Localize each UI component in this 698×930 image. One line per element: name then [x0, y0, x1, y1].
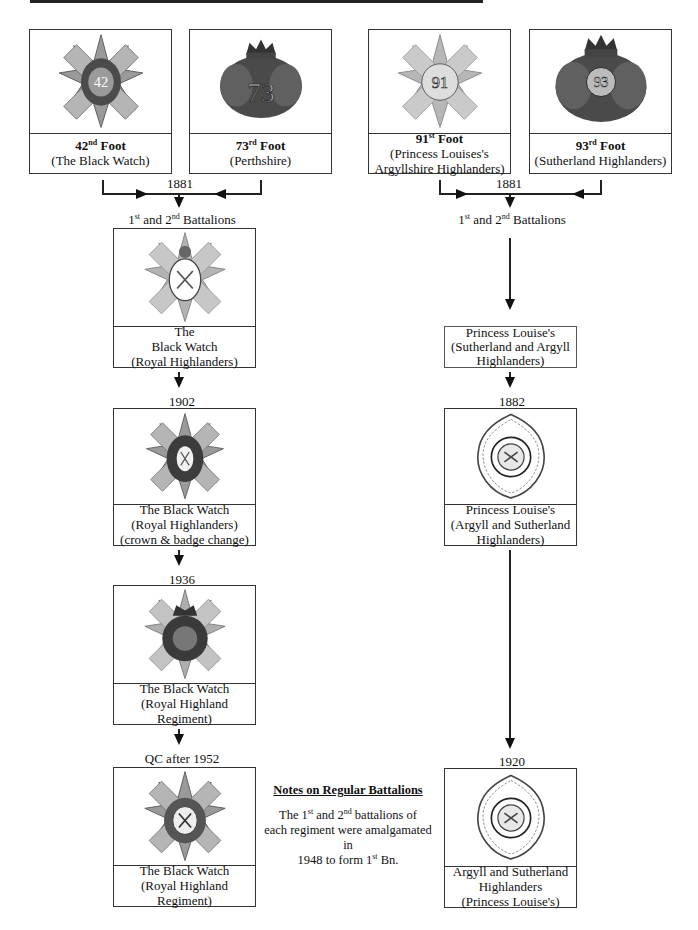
- stage-caption: Argyll and Sutherland Highlanders (Princ…: [445, 865, 576, 907]
- stage-caption: The Black Watch (Royal Highland Regiment…: [114, 864, 255, 906]
- merge-year-label: 1881: [167, 176, 193, 192]
- svg-text:93: 93: [593, 74, 608, 90]
- badge-73rd-icon: 73: [190, 30, 331, 134]
- regiment-caption: 93rd Foot (Sutherland Highlanders): [530, 133, 671, 173]
- arrow-right-icon: [456, 189, 468, 199]
- merge-connector: [260, 180, 262, 194]
- stage-caption: The Black Watch (Royal Highland Regiment…: [114, 682, 255, 724]
- svg-text:91: 91: [431, 73, 447, 92]
- timeline-connector: [509, 550, 511, 740]
- arrow-down-icon: [505, 738, 515, 749]
- regiment-card-91st: 91 91st Foot (Princess Louises's Argylls…: [368, 29, 511, 174]
- battalions-label: 1st and 2nd Battalions: [458, 212, 566, 228]
- badge-black-watch-icon: [114, 229, 255, 327]
- regiment-caption: 73rd Foot (Perthshire): [190, 133, 331, 173]
- merge-connector: [600, 180, 602, 194]
- notes-block: Notes on Regular Battalions The 1st and …: [258, 783, 438, 868]
- svg-text:73: 73: [247, 76, 275, 107]
- merge-connector: [439, 180, 441, 194]
- stage-card-argyll-1882: Princess Louise's (Argyll and Sutherland…: [444, 408, 577, 546]
- arrow-down-icon: [174, 734, 184, 745]
- stage-caption: Princess Louise's (Argyll and Sutherland…: [445, 503, 576, 545]
- heading-underline: [30, 0, 483, 3]
- stage-year-label: QC after 1952: [145, 751, 219, 767]
- timeline-connector: [509, 238, 511, 300]
- arrow-down-icon: [505, 197, 515, 208]
- stage-card-argyll-1920: Argyll and Sutherland Highlanders (Princ…: [444, 768, 577, 908]
- arrow-down-icon: [505, 377, 515, 388]
- badge-93rd-icon: 93: [530, 30, 671, 134]
- stage-card-black-watch-1936: The Black Watch (Royal Highland Regiment…: [113, 585, 256, 725]
- merge-connector: [102, 193, 262, 195]
- regiment-card-42nd: 42 42nd Foot (The Black Watch): [29, 29, 172, 174]
- stage-caption: The Black Watch (Royal Highlanders) (cro…: [114, 503, 255, 545]
- arrow-down-icon: [174, 555, 184, 566]
- notes-title: Notes on Regular Battalions: [258, 783, 438, 798]
- badge-argyll-sutherland-icon: [445, 409, 576, 505]
- arrow-down-icon: [505, 299, 515, 310]
- badge-black-watch-1902-icon: [114, 409, 255, 505]
- stage-card-black-watch-1881: The Black Watch (Royal Highlanders): [113, 228, 256, 368]
- badge-91st-icon: 91: [369, 30, 510, 134]
- stage-card-black-watch-1902: The Black Watch (Royal Highlanders) (cro…: [113, 408, 256, 546]
- svg-text:42: 42: [93, 74, 108, 90]
- interim-name-box: Princess Louise's (Sutherland and Argyll…: [444, 326, 577, 368]
- arrow-left-icon: [572, 189, 584, 199]
- stage-caption: The Black Watch (Royal Highlanders): [114, 325, 255, 367]
- arrow-down-icon: [174, 197, 184, 208]
- badge-42nd-icon: 42: [30, 30, 171, 134]
- stage-card-black-watch-qc: The Black Watch (Royal Highland Regiment…: [113, 767, 256, 907]
- battalions-label: 1st and 2nd Battalions: [128, 212, 236, 228]
- arrow-left-icon: [214, 189, 226, 199]
- merge-year-label: 1881: [496, 176, 522, 192]
- regiment-caption: 91st Foot (Princess Louises's Argyllshir…: [369, 133, 510, 173]
- badge-black-watch-qc-icon: [114, 768, 255, 866]
- notes-text: The 1st and 2nd battalions of each regim…: [258, 808, 438, 868]
- regiment-caption: 42nd Foot (The Black Watch): [30, 133, 171, 173]
- arrow-right-icon: [136, 189, 148, 199]
- regiment-card-73rd: 73 73rd Foot (Perthshire): [189, 29, 332, 174]
- badge-argyll-sutherland-1920-icon: [445, 769, 576, 867]
- merge-connector: [102, 180, 104, 194]
- regiment-card-93rd: 93 93rd Foot (Sutherland Highlanders): [529, 29, 672, 174]
- badge-black-watch-1936-icon: [114, 586, 255, 684]
- arrow-down-icon: [174, 377, 184, 388]
